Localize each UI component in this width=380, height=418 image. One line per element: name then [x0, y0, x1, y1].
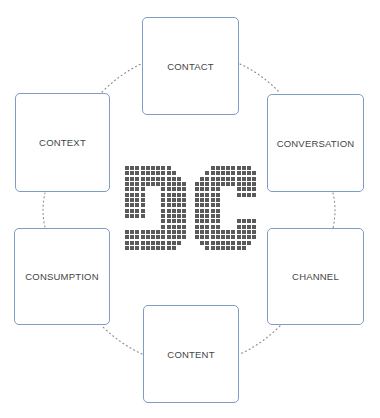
logo-dot	[205, 203, 209, 207]
logo-dot	[177, 166, 181, 170]
logo-dot	[177, 230, 181, 234]
logo-dot	[247, 182, 251, 186]
logo-dot	[211, 219, 215, 223]
logo-dot	[151, 193, 155, 197]
diagram-canvas: CONTACT CONVERSATION CHANNEL CONTENT CON…	[0, 0, 380, 418]
logo-dot	[135, 171, 139, 175]
logo-dot	[242, 230, 246, 234]
logo-dot	[172, 235, 176, 239]
node-conversation[interactable]: CONVERSATION	[267, 94, 364, 192]
logo-dot	[205, 219, 209, 223]
logo-dot	[151, 230, 155, 234]
logo-dot	[205, 177, 209, 181]
logo-dot	[141, 225, 145, 229]
logo-dot	[252, 187, 256, 191]
node-channel[interactable]: CHANNEL	[267, 228, 364, 325]
logo-dot	[205, 171, 209, 175]
logo-dot	[177, 177, 181, 181]
logo-dot	[161, 177, 165, 181]
logo-dot	[231, 198, 235, 202]
logo-dot	[252, 246, 256, 250]
logo-dot	[177, 193, 181, 197]
node-context[interactable]: CONTEXT	[15, 93, 110, 192]
logo-dot	[146, 203, 150, 207]
logo-dot	[237, 214, 241, 218]
logo-dot	[226, 193, 230, 197]
logo-dot	[205, 209, 209, 213]
logo-dot	[195, 182, 199, 186]
logo-dot	[247, 187, 251, 191]
logo-dot	[156, 198, 160, 202]
logo-dot	[195, 225, 199, 229]
logo-dot	[125, 177, 129, 181]
logo-dot	[216, 166, 220, 170]
logo-dot	[221, 219, 225, 223]
logo-dot	[221, 225, 225, 229]
logo-dot	[221, 230, 225, 234]
logo-dot	[252, 219, 256, 223]
logo-dot	[161, 235, 165, 239]
logo-dot	[172, 241, 176, 245]
logo-dot	[216, 246, 220, 250]
logo-dot	[216, 235, 220, 239]
logo-dot	[195, 219, 199, 223]
logo-dot	[195, 235, 199, 239]
logo-dot	[242, 209, 246, 213]
logo-dot	[177, 219, 181, 223]
logo-dot	[125, 171, 129, 175]
logo-dot	[247, 225, 251, 229]
logo-dot	[242, 182, 246, 186]
node-consumption[interactable]: CONSUMPTION	[14, 228, 110, 325]
logo-dot	[161, 230, 165, 234]
logo-dot	[130, 235, 134, 239]
logo-dot	[141, 198, 145, 202]
logo-dot	[125, 230, 129, 234]
logo-dot	[167, 166, 171, 170]
logo-dot	[221, 166, 225, 170]
logo-dot	[216, 198, 220, 202]
logo-dot	[200, 225, 204, 229]
logo-dot	[177, 214, 181, 218]
logo-dot	[200, 166, 204, 170]
logo-dot	[172, 182, 176, 186]
logo-dot	[237, 187, 241, 191]
logo-dot	[182, 198, 186, 202]
logo-dot	[161, 209, 165, 213]
logo-dot	[130, 166, 134, 170]
logo-dot	[231, 246, 235, 250]
logo-dot	[146, 187, 150, 191]
logo-dot	[156, 209, 160, 213]
logo-dot	[216, 177, 220, 181]
logo-dot	[242, 219, 246, 223]
logo-dot	[130, 177, 134, 181]
logo-dot	[252, 241, 256, 245]
connector-channel-content	[240, 326, 280, 354]
logo-dot	[247, 166, 251, 170]
logo-dot	[221, 187, 225, 191]
logo-dot	[221, 246, 225, 250]
logo-dot	[195, 241, 199, 245]
node-content[interactable]: CONTENT	[143, 305, 239, 403]
logo-dot	[125, 219, 129, 223]
logo-dot	[177, 235, 181, 239]
logo-dot	[195, 187, 199, 191]
node-label: CHANNEL	[292, 271, 339, 282]
logo-dot	[205, 230, 209, 234]
logo-dot	[195, 209, 199, 213]
logo-dot	[221, 198, 225, 202]
logo-dot	[226, 177, 230, 181]
logo-dot	[195, 198, 199, 202]
logo-dot	[231, 193, 235, 197]
logo-dot	[130, 241, 134, 245]
logo-dot	[221, 182, 225, 186]
node-contact[interactable]: CONTACT	[142, 17, 239, 115]
logo-dot	[211, 230, 215, 234]
logo-dot	[177, 225, 181, 229]
logo-dot	[135, 209, 139, 213]
logo-dot	[231, 166, 235, 170]
logo-dot	[231, 235, 235, 239]
logo-dot	[172, 219, 176, 223]
logo-dot	[216, 241, 220, 245]
logo-dot	[125, 235, 129, 239]
logo-dot	[242, 171, 246, 175]
